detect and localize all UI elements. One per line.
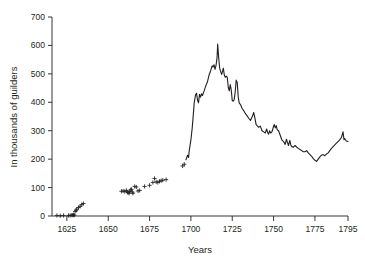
scatter-marker-plus [143, 184, 147, 188]
y-tick-label: 700 [31, 12, 45, 22]
y-axis-tick-labels: 0100200300400500600700 [31, 12, 45, 221]
chart-figure: 0100200300400500600700 16251650167517001… [0, 0, 365, 264]
x-tick-label: 1750 [264, 224, 283, 234]
scatter-marker-plus [164, 178, 168, 182]
x-tick-label: 1700 [181, 224, 200, 234]
y-tick-label: 100 [31, 183, 45, 193]
annual-series-line [186, 44, 348, 161]
x-axis-title: Years [188, 244, 212, 255]
x-axis-ticks [67, 216, 348, 221]
y-axis-title: In thousands of guilders [8, 66, 19, 167]
x-tick-label: 1795 [339, 224, 358, 234]
scatter-marker-plus [61, 213, 65, 217]
y-axis: 0100200300400500600700 [31, 12, 52, 221]
x-tick-label: 1625 [57, 224, 76, 234]
y-tick-label: 600 [31, 40, 45, 50]
y-tick-label: 300 [31, 126, 45, 136]
chart-canvas: 0100200300400500600700 16251650167517001… [0, 0, 365, 264]
x-axis-tick-labels: 16251650167517001725175017751795 [57, 224, 357, 234]
scatter-marker-plus [151, 180, 155, 184]
x-tick-label: 1775 [305, 224, 324, 234]
y-tick-label: 200 [31, 154, 45, 164]
y-axis-ticks [48, 17, 52, 216]
scatter-marker-plus [147, 183, 151, 187]
x-axis: 16251650167517001725175017751795 [52, 216, 358, 234]
x-tick-label: 1650 [99, 224, 118, 234]
y-tick-label: 500 [31, 69, 45, 79]
x-tick-label: 1725 [223, 224, 242, 234]
y-tick-label: 0 [40, 211, 45, 221]
scatter-marker-group [55, 162, 187, 218]
plot-area [55, 44, 348, 218]
x-tick-label: 1675 [140, 224, 159, 234]
y-tick-label: 400 [31, 97, 45, 107]
